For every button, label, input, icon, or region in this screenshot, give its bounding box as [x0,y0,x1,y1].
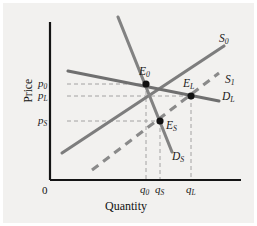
curve-DS-sub: S [180,155,184,164]
y-tick-pL-sub: L [44,94,48,103]
x-tick-label-qL: qL [186,184,196,195]
y-axis-title: Price [23,69,35,113]
point-E0-sub: 0 [146,70,150,79]
curve-label-DL: DL [222,91,235,103]
x-tick-qS-sub: S [161,188,165,197]
point-marker-E0 [142,80,149,87]
y-tick-label-pS: pS [38,115,47,126]
x-tick-q0-base: q [140,183,146,195]
y-tick-pL-base: p [38,89,44,101]
curve-label-S1: S1 [225,74,235,86]
point-label-E0: E0 [139,66,150,78]
y-tick-label-p0: p0 [38,78,47,89]
curve-label-S0: S0 [219,33,229,45]
point-ES-base: E [166,119,173,131]
curve-S0-base: S [219,32,225,44]
x-tick-qL-base: q [186,183,192,195]
point-marker-EL [187,92,194,99]
x-tick-qS-base: q [155,183,161,195]
point-EL-sub: L [190,82,194,91]
curve-label-DS: DS [172,151,184,163]
curve-S1-base: S [225,73,231,85]
x-axis-title: Quantity [105,200,147,212]
curve-S1-sub: 1 [231,78,235,87]
curve-S0-sub: 0 [225,37,229,46]
origin-label: 0 [42,185,48,196]
point-label-EL: EL [183,78,194,90]
x-tick-q0-sub: 0 [146,188,150,197]
y-tick-pS-sub: S [44,119,48,128]
x-tick-qL-sub: L [192,188,196,197]
point-E0-base: E [139,65,146,77]
curve-DL-sub: L [230,95,234,104]
supply-demand-figure: p0 pL pS q0 qS qL S0 S1 DL DS E0 EL ES P… [0,0,257,226]
point-marker-ES [156,117,163,124]
x-tick-label-qS: qS [155,184,164,195]
point-EL-base: E [183,77,190,89]
point-ES-sub: S [173,124,177,133]
x-tick-label-q0: q0 [140,184,149,195]
y-tick-pS-base: p [38,114,44,126]
point-label-ES: ES [166,120,177,132]
y-tick-p0-base: p [38,77,44,89]
y-tick-label-pL: pL [38,90,48,101]
